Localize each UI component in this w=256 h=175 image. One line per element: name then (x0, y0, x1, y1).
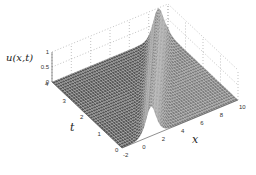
t-tick-label: 2 (80, 114, 84, 120)
x-tick-label: 0 (142, 144, 146, 150)
z-tick-label: 1 (46, 49, 50, 55)
x-tick-label: 4 (181, 128, 185, 134)
x-tick-label: 10 (239, 104, 246, 110)
x-tick-label: 6 (200, 120, 204, 126)
z-axis-label: u(x,t) (6, 52, 33, 63)
t-tick-label: 1 (98, 131, 102, 137)
z-tick-label: 0.5 (41, 64, 50, 70)
x-tick-label: -2 (123, 152, 129, 158)
mesh-surface (52, 8, 238, 148)
t-tick-label: 0 (115, 147, 119, 153)
t-axis-label: t (70, 121, 75, 134)
z-tick-label: 0 (46, 79, 50, 85)
t-tick-label: 3 (63, 98, 67, 104)
surface-plot: -202468100123400.51 u(x,t) t x (0, 0, 256, 175)
x-axis-label: x (192, 133, 199, 146)
x-tick-label: 8 (220, 112, 224, 118)
x-tick-label: 2 (162, 136, 166, 142)
